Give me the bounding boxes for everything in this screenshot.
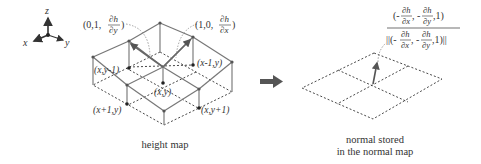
label-xm1-y: (x-1,y) bbox=[197, 58, 222, 69]
svg-text:∂y: ∂y bbox=[423, 16, 431, 26]
svg-text:,1): ,1) bbox=[433, 10, 444, 22]
svg-text:,1)||: ,1)|| bbox=[432, 34, 447, 46]
label-x-y: (x,y) bbox=[154, 87, 171, 98]
tangent-y-label: (0,1, ∂h ∂y ) bbox=[83, 14, 124, 35]
svg-text:∂y: ∂y bbox=[422, 40, 430, 50]
svg-text:∂y: ∂y bbox=[109, 25, 117, 35]
svg-text:(0,1,: (0,1, bbox=[83, 19, 101, 31]
normal-formula: (- ∂h ∂x , - ∂h ∂y ,1) ||(- ∂h ∂x , - ∂h… bbox=[386, 5, 460, 50]
normal-vector-arrow bbox=[373, 63, 377, 84]
height-map: (0,1, ∂h ∂y ) (1,0, ∂h ∂x ) (x,y-1) (x-1… bbox=[83, 14, 235, 125]
svg-text:∂x: ∂x bbox=[401, 40, 409, 50]
svg-text:, -: , - bbox=[411, 34, 419, 45]
origin-point bbox=[46, 33, 50, 37]
svg-text:∂h: ∂h bbox=[422, 29, 430, 39]
svg-text:∂h: ∂h bbox=[423, 5, 431, 15]
normal-map-caption-line2: in the normal map bbox=[325, 146, 425, 158]
svg-text:∂h: ∂h bbox=[109, 14, 118, 24]
svg-text:∂h: ∂h bbox=[402, 5, 410, 15]
tangent-y-vector bbox=[131, 44, 163, 67]
x-axis-label: x bbox=[22, 37, 28, 48]
x-axis-arrow bbox=[34, 35, 48, 41]
svg-text:||(-: ||(- bbox=[386, 34, 397, 46]
label-x-yp1: (x,y+1) bbox=[201, 105, 229, 116]
normal-grid bbox=[302, 53, 442, 119]
svg-text:(1,0,: (1,0, bbox=[195, 19, 213, 31]
normal-leader-line bbox=[378, 43, 386, 62]
axis-gizmo: z x y bbox=[22, 5, 70, 48]
svg-text:∂h: ∂h bbox=[220, 14, 229, 24]
y-axis-arrow bbox=[48, 35, 63, 40]
svg-text:): ) bbox=[121, 19, 124, 31]
z-axis-label: z bbox=[44, 5, 49, 16]
normal-map-caption-line1: normal stored bbox=[330, 134, 420, 146]
svg-text:∂x: ∂x bbox=[402, 16, 410, 26]
tangent-x-label: (1,0, ∂h ∂x ) bbox=[195, 14, 235, 35]
transform-arrow bbox=[260, 75, 283, 88]
svg-text:∂x: ∂x bbox=[220, 25, 228, 35]
label-xp1-y: (x+1,y) bbox=[93, 105, 121, 116]
svg-text:∂h: ∂h bbox=[401, 29, 409, 39]
label-x-ym1: (x,y-1) bbox=[94, 65, 119, 76]
svg-text:(-: (- bbox=[393, 10, 400, 22]
normal-map: (- ∂h ∂x , - ∂h ∂y ,1) ||(- ∂h ∂x , - ∂h… bbox=[302, 5, 460, 119]
height-map-caption: height map bbox=[130, 139, 200, 151]
svg-text:, -: , - bbox=[412, 10, 420, 21]
tangent-x-vector bbox=[163, 40, 190, 67]
y-axis-label: y bbox=[64, 37, 70, 48]
svg-text:): ) bbox=[232, 19, 235, 31]
